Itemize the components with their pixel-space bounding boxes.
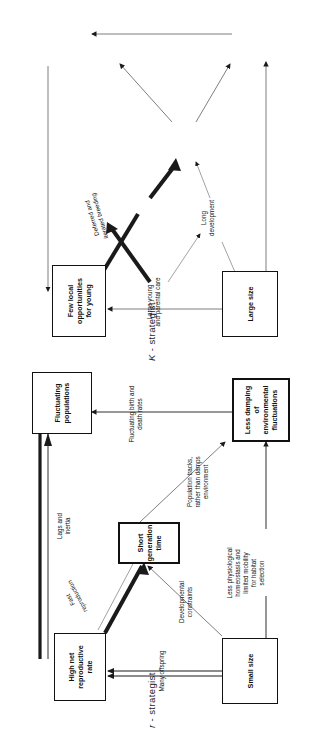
edge-label-deferred-iterated-breeding: Deferred anditerated breeding <box>77 176 115 257</box>
edge-label-population-tracks: Population tracks,rather than dampsenvir… <box>186 438 210 526</box>
edge-label-lags-and-inertia: Lags andinertia <box>56 496 72 556</box>
edge-label-developmental-constraints: Developmentalconstraints <box>178 570 194 634</box>
edge-label-fluctuating-birth-death-rates: Fluctuating birth anddeath rates <box>128 362 144 466</box>
panel-title-r-symbol: r <box>146 724 157 728</box>
edge-label-less-physiological-homeostasis: Less physiologicalhomeostasis andlimited… <box>226 530 266 616</box>
node-less-damping-environmental-fluctuations: Less damping ofenvironmentalfluctuations <box>232 378 290 442</box>
panel-title-r: r - strategist <box>146 672 157 728</box>
node-large-size: Large size <box>222 271 278 337</box>
edge-label-fast-reproduction: Fastreproduction <box>54 569 95 626</box>
panel-title-r-rest: - strategist <box>146 672 157 724</box>
node-fluctuating-populations: Fluctuatingpopulations <box>32 372 92 434</box>
panel-r-strategist: r - strategist Small size High netreprod… <box>0 367 309 734</box>
node-short-generation-time: Shortgeneration time <box>118 522 180 564</box>
edge-label-long-development: Longdevelopment <box>200 187 216 249</box>
panel-title-k-symbol: K <box>146 354 157 361</box>
node-high-net-reproductive-rate: High netreproductiverate <box>54 633 106 701</box>
edge-label-many-offspring: Many offspring <box>158 636 166 706</box>
panel-k-strategist: K - strategist Large size Few localoppor… <box>0 0 309 367</box>
figure-stage: r - strategist Small size High netreprod… <box>0 0 309 734</box>
edge-label-large-young-parental-care: Large youngand parental care <box>146 261 162 343</box>
node-few-local-opportunities-for-young: Few localopportunitiesfor young <box>52 265 106 337</box>
node-small-size: Small size <box>222 638 278 704</box>
